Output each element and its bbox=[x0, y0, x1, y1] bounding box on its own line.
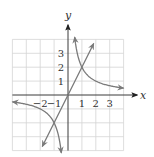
x-tick-label: −1 bbox=[47, 98, 62, 109]
y-tick-label: 1 bbox=[58, 76, 64, 87]
x-tick-label: 1 bbox=[79, 98, 85, 109]
x-tick-label: 2 bbox=[93, 98, 99, 109]
graph: −2−1123123 x y bbox=[0, 0, 154, 157]
x-axis-label: x bbox=[140, 89, 147, 102]
y-tick-label: 3 bbox=[58, 48, 64, 59]
tick-labels: −2−1123123 bbox=[33, 48, 113, 109]
y-axis-label: y bbox=[64, 9, 72, 22]
y-tick-label: 2 bbox=[58, 62, 64, 73]
x-tick-label: 3 bbox=[107, 98, 113, 109]
